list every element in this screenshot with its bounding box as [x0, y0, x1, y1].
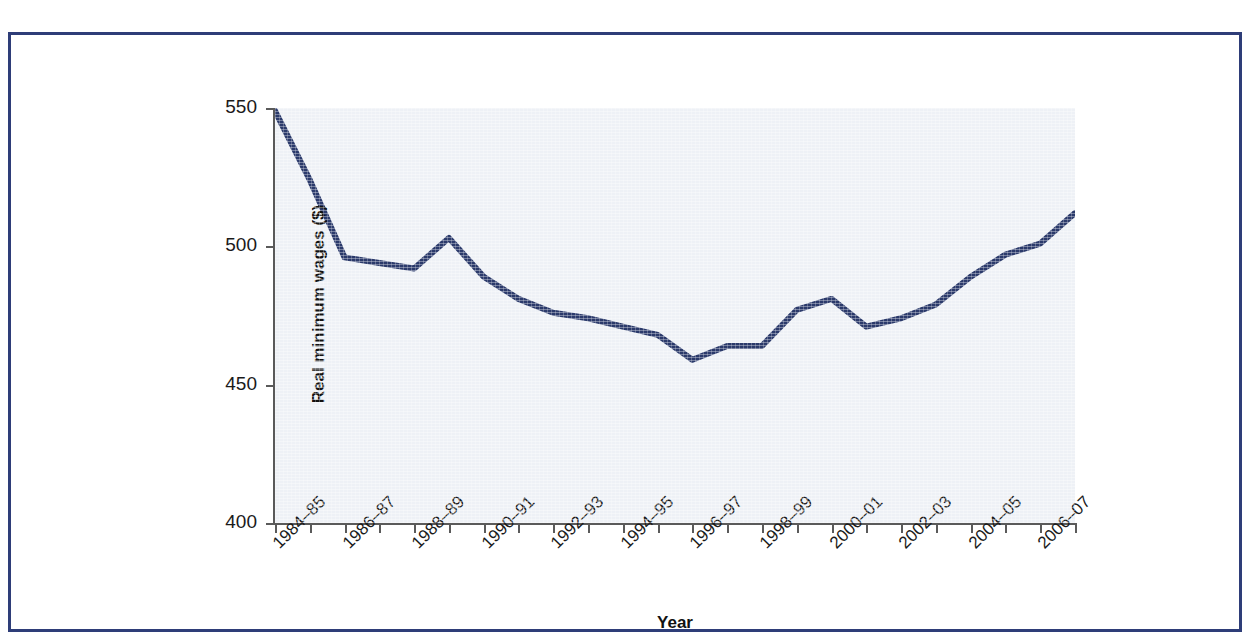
- ytick-label-450: 450: [205, 373, 257, 395]
- figure-frame: 550 500 450 400 Real minimum wages ($) 1…: [8, 32, 1242, 632]
- ytick-mark-500: [266, 246, 275, 248]
- ytick-mark-400: [266, 523, 275, 525]
- plot-area: 550 500 450 400 Real minimum wages ($) 1…: [273, 108, 1075, 525]
- x-axis-title: Year: [275, 613, 1075, 633]
- series-line-real-minimum-wages: [275, 111, 1075, 360]
- caption-remnant: [0, 0, 1250, 14]
- xtick-mark: [1005, 523, 1007, 533]
- xtick-mark: [866, 523, 868, 533]
- xtick-mark: [379, 523, 381, 533]
- xtick-mark: [727, 523, 729, 533]
- xtick-mark: [658, 523, 660, 533]
- xtick-mark: [449, 523, 451, 533]
- xtick-mark: [310, 523, 312, 533]
- y-axis-title: Real minimum wages ($): [309, 164, 329, 444]
- xtick-mark: [936, 523, 938, 533]
- ytick-mark-450: [266, 385, 275, 387]
- xtick-mark: [518, 523, 520, 533]
- xtick-mark: [1075, 523, 1077, 533]
- ytick-mark-550: [266, 108, 275, 110]
- line-series-svg: [275, 108, 1075, 523]
- xtick-mark: [797, 523, 799, 533]
- ytick-label-400: 400: [205, 511, 257, 533]
- ytick-label-500: 500: [205, 234, 257, 256]
- xtick-mark: [588, 523, 590, 533]
- ytick-label-550: 550: [205, 96, 257, 118]
